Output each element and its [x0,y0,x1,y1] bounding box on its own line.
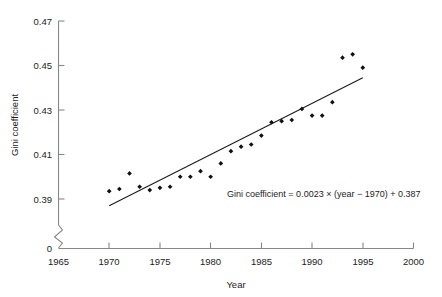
data-point [117,187,122,192]
x-tick-label-2000: 2000 [403,256,424,267]
data-point [310,113,315,118]
chart-canvas: 0.47 0.45 0.43 0.41 0.39 0 1965 1970 1 [0,0,442,297]
regression-line-group [109,78,363,206]
x-tick-label-1970: 1970 [98,256,119,267]
data-point [168,184,173,189]
x-axis-ticks: 1965 1970 1975 1980 1985 1990 1995 2000 [48,243,424,268]
data-point-group [107,52,365,194]
y-axis-ticks: 0.47 0.45 0.43 0.41 0.39 0 [34,16,65,255]
data-point [178,174,183,179]
data-point [198,169,203,174]
data-point [239,144,244,149]
y-tick-label-0-43: 0.43 [34,105,53,116]
x-tick-label-1985: 1985 [251,256,272,267]
data-point [249,142,254,147]
data-point [269,120,274,125]
data-point [330,100,335,105]
equation-annotation: Gini coefficient = 0.0023 × (year − 1970… [227,189,420,199]
x-tick-label-1995: 1995 [352,256,373,267]
x-tick-label-1990: 1990 [301,256,322,267]
data-point [107,189,112,194]
data-point [320,113,325,118]
regression-line [109,78,363,206]
gini-coefficient-chart: 0.47 0.45 0.43 0.41 0.39 0 1965 1970 1 [0,0,442,297]
y-tick-label-0-39: 0.39 [34,194,53,205]
x-tick-label-1980: 1980 [200,256,221,267]
data-point [158,186,163,191]
x-axis-title: Year [226,279,245,290]
data-point [147,188,152,193]
data-point [218,161,223,166]
data-point [259,133,264,138]
data-point [350,52,355,57]
x-tick-label-1965: 1965 [48,256,69,267]
data-point [340,55,345,60]
data-point [137,184,142,189]
data-point [208,174,213,179]
y-axis-break-icon [55,225,63,248]
data-point [127,171,132,176]
y-tick-label-zero: 0 [47,243,52,254]
y-tick-label-0-41: 0.41 [34,149,53,160]
data-point [289,118,294,123]
x-tick-label-1975: 1975 [149,256,170,267]
data-point [360,65,365,70]
y-axis [55,21,63,248]
data-point [188,174,193,179]
y-tick-label-0-47: 0.47 [34,16,53,27]
y-tick-label-0-45: 0.45 [34,60,53,71]
y-axis-title: Gini coefficient [9,94,20,156]
data-point [229,149,234,154]
